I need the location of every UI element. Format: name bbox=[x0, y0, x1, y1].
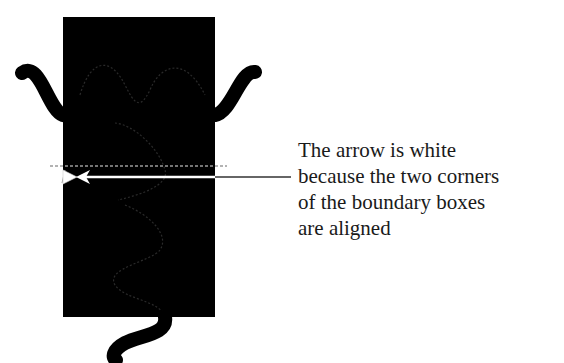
annotation-caption: The arrow is white because the two corne… bbox=[298, 137, 560, 241]
caption-line-4: are aligned bbox=[298, 215, 560, 241]
caption-line-3: of the boundary boxes bbox=[298, 189, 560, 215]
caption-line-1: The arrow is white bbox=[298, 137, 560, 163]
boundary-box bbox=[63, 17, 215, 317]
caption-line-2: because the two corners bbox=[298, 163, 560, 189]
wavy-curve-tail bbox=[114, 317, 166, 360]
